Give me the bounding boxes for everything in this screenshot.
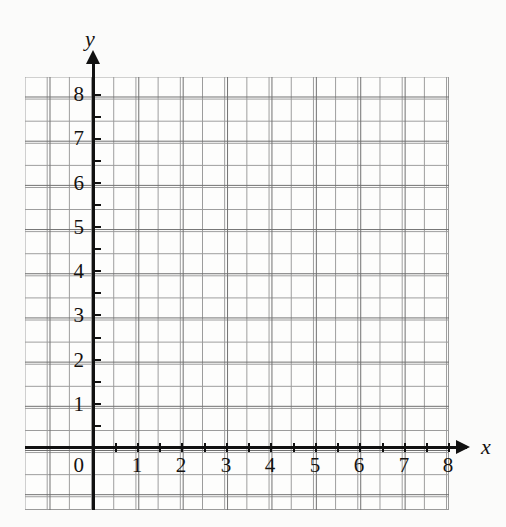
x-axis-tick [115,443,117,452]
x-axis-tick-label: 1 [124,455,150,476]
y-axis-tick [92,94,101,96]
y-axis-tick-label: 5 [58,217,84,238]
x-axis-tick-label: 3 [213,455,239,476]
x-axis-arrow-icon [456,440,470,454]
origin-label: 0 [58,455,84,476]
x-axis-tick [315,443,317,452]
y-axis-tick-label: 3 [58,305,84,326]
y-axis-tick [92,292,101,294]
x-axis-tick-label: 2 [168,455,194,476]
x-axis-tick [248,443,250,452]
y-axis-tick [92,248,101,250]
x-axis-tick [293,443,295,452]
y-axis-tick [92,138,101,140]
y-axis-tick-label: 6 [58,173,84,194]
y-axis-tick [92,226,101,228]
y-axis-tick [92,270,101,272]
y-axis-arrow-icon [86,50,100,64]
y-axis-tick [92,160,101,162]
y-axis-tick [92,381,101,383]
x-axis-tick [426,443,428,452]
x-axis-line [25,446,467,449]
y-axis-tick-label: 1 [58,394,84,415]
x-axis-tick-label: 6 [346,455,372,476]
x-axis-tick [181,443,183,452]
x-axis-tick-label: 4 [257,455,283,476]
x-axis-tick [448,443,450,452]
y-axis-tick [92,182,101,184]
y-axis-tick [92,359,101,361]
x-axis-tick [382,443,384,452]
y-axis-tick [92,116,101,118]
x-axis-tick [159,443,161,452]
y-axis-tick-label: 4 [58,261,84,282]
y-axis-tick-label: 8 [58,84,84,105]
x-axis-tick-label: 8 [435,455,461,476]
x-axis-tick-label: 5 [302,455,328,476]
x-axis-tick [404,443,406,452]
x-axis-tick [137,443,139,452]
x-axis-tick [337,443,339,452]
y-axis-tick [92,403,101,405]
x-axis-tick [270,443,272,452]
x-axis-tick [93,443,95,452]
y-axis-tick-label: 2 [58,350,84,371]
x-axis-tick [359,443,361,452]
x-axis-label: x [481,436,491,458]
y-axis-tick [92,204,101,206]
coordinate-plane-figure: 1 2 3 4 5 6 7 8 1 2 3 4 5 6 7 8 0 y x [0,0,506,527]
y-axis-tick-label: 7 [58,128,84,149]
y-axis-tick [92,314,101,316]
y-axis-tick [92,337,101,339]
x-axis-tick [226,443,228,452]
x-axis-tick [204,443,206,452]
y-axis-label: y [85,28,95,50]
y-axis-tick [92,425,101,427]
x-axis-tick-label: 7 [391,455,417,476]
